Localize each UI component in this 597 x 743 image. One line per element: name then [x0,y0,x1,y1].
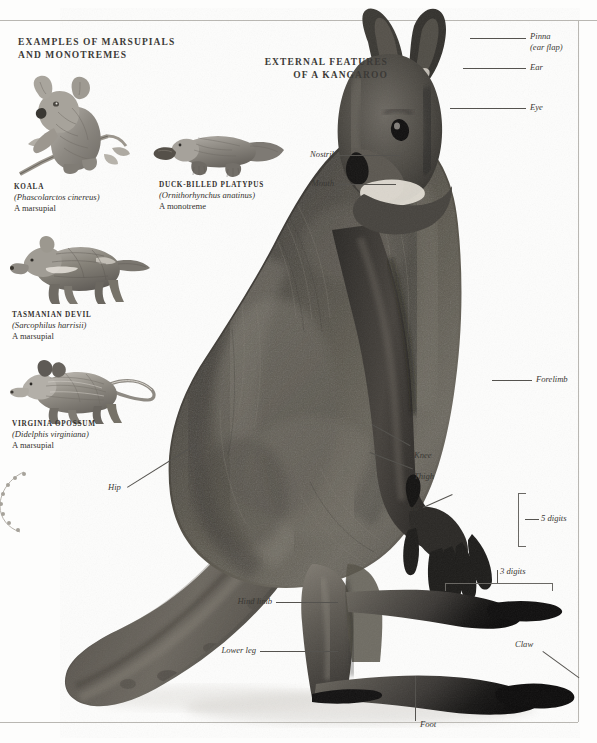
label-knee: Knee [414,450,432,461]
leader-mouth [338,184,396,185]
plate-page: KOALA (Phascolarctos cinereus) A marsupi… [0,0,597,743]
leader-5-digits [525,519,539,520]
koala-illustration [12,74,132,178]
bracket-3-digits [445,583,553,591]
label-forelimb: Forelimb [536,374,568,385]
leader-3-digits [497,570,498,583]
virginia-opossum-type: A marsupial [12,440,172,451]
caption-tasmanian-devil: TASMANIAN DEVIL (Sarcophilus harrisii) A… [12,310,172,342]
leader-ear [463,68,526,69]
edge-ornament [0,470,40,540]
plate-title-line-1: EXTERNAL FEATURES [236,56,388,69]
platypus-scientific-name: (Ornithorhynchus anatinus) [159,190,319,201]
label-pinna-line-1: Pinna [530,31,563,42]
koala-scientific-name: (Phascolarctos cinereus) [14,192,174,203]
label-ear: Ear [530,62,543,73]
leader-lower-leg [260,651,338,652]
plate-title-line-2: OF A KANGAROO [236,69,388,82]
label-3-digits: 3 digits [500,566,526,577]
caption-koala: KOALA (Phascolarctos cinereus) A marsupi… [14,182,174,214]
label-hind-limb: Hind limb [212,596,272,607]
label-claw-forelimb: Claw [379,503,419,514]
label-claw-hind-foot: Claw [515,639,533,650]
left-column-heading: EXAMPLES OF MARSUPIALS AND MONOTREMES [18,36,208,62]
label-foot: Foot [420,719,436,730]
label-eye: Eye [530,102,543,113]
left-heading-line-1: EXAMPLES OF MARSUPIALS [18,36,208,49]
tasmanian-devil-type: A marsupial [12,331,172,342]
platypus-type: A monotreme [159,201,319,212]
leader-pinna [470,38,526,39]
tasmanian-devil-name: TASMANIAN DEVIL [12,310,172,320]
left-heading-line-2: AND MONOTREMES [18,49,208,62]
label-pinna-line-2: (ear flap) [530,42,563,53]
label-hip: Hip [108,482,121,493]
leader-hind-limb [276,602,338,603]
virginia-opossum-scientific-name: (Didelphis virginiana) [12,429,172,440]
tasmanian-devil-illustration [8,232,156,306]
virginia-opossum-illustration [10,358,158,424]
virginia-opossum-name: VIRGINIA OPOSSUM [12,419,172,429]
leader-forelimb [492,380,532,381]
label-nostril: Nostril [278,149,334,160]
koala-type: A marsupial [14,203,174,214]
leader-foot [415,676,416,721]
tasmanian-devil-scientific-name: (Sarcophilus harrisii) [12,320,172,331]
label-5-digits: 5 digits [541,513,567,524]
platypus-illustration [152,118,288,178]
caption-virginia-opossum: VIRGINIA OPOSSUM (Didelphis virginiana) … [12,419,172,451]
label-pinna: Pinna (ear flap) [530,31,563,53]
leader-nostril [338,155,400,156]
label-thigh: Thigh [414,471,434,482]
koala-name: KOALA [14,182,174,192]
label-lower-leg: Lower leg [194,645,256,656]
bracket-5-digits [518,493,526,547]
label-mouth: Mouth [278,178,334,189]
plate-title: EXTERNAL FEATURES OF A KANGAROO [236,56,388,82]
leader-eye [450,108,526,109]
